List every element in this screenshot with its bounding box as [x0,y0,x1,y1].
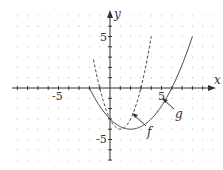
y-tick-label-5: 5 [100,31,107,44]
y-tick-label-neg5: -5 [96,133,107,146]
y-axis-label: y [113,7,121,21]
x-axis-label: x [214,73,221,87]
graph: x y -5 5 5 -5 f g [0,0,223,170]
curve-f [94,37,152,130]
g-label: g [175,107,183,121]
x-tick-label-neg5: -5 [52,90,63,103]
y-axis-arrow-icon [107,10,113,18]
f-label: f [146,125,154,139]
